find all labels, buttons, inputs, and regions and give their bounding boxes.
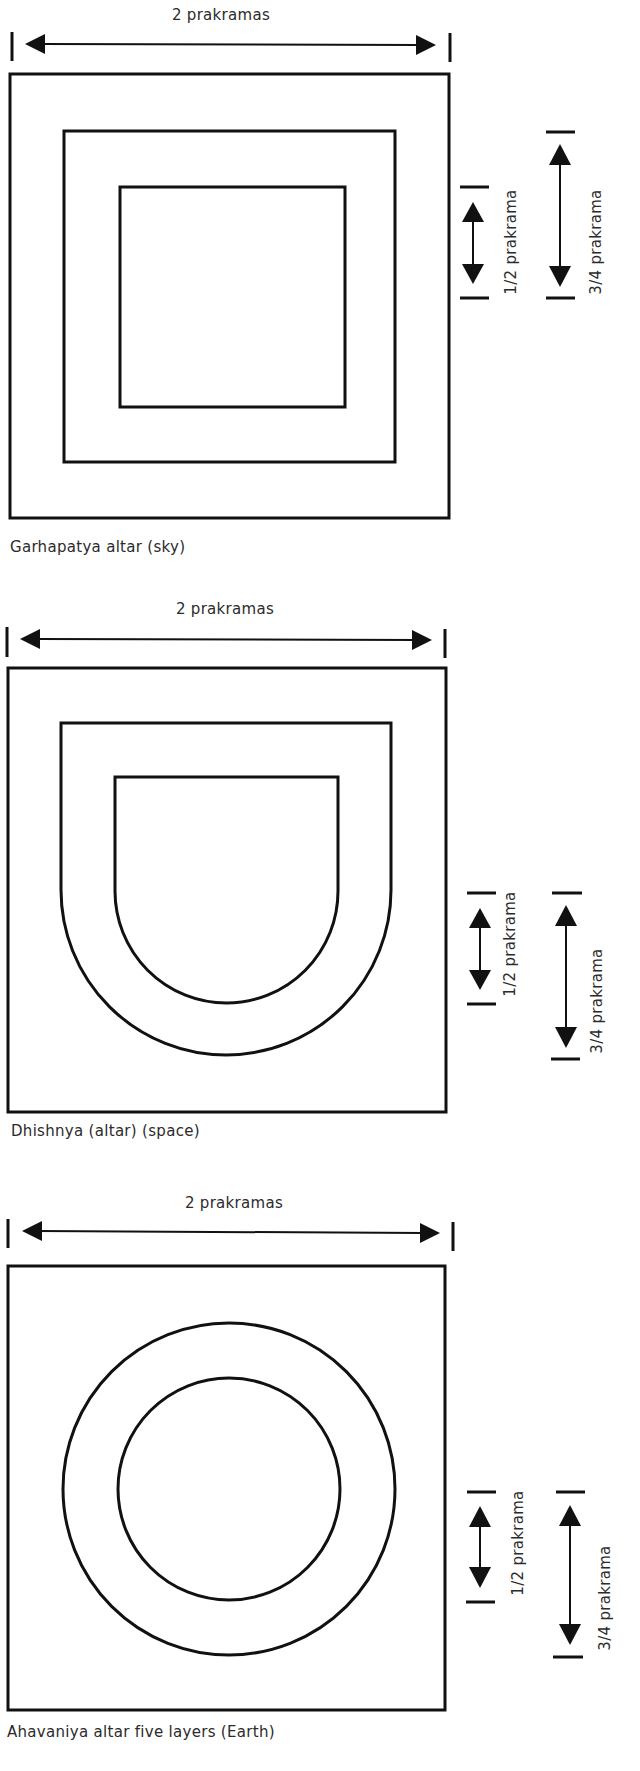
width-dimension-arrow xyxy=(8,1219,453,1251)
diagram-caption: Garhapatya altar (sky) xyxy=(10,538,185,556)
arrow-down-icon xyxy=(549,266,571,287)
arrow-left-icon xyxy=(25,34,45,54)
outer-circle xyxy=(63,1323,395,1655)
arrow-down-icon xyxy=(469,1567,491,1588)
half-prakrama-dimension xyxy=(467,893,496,1004)
arrow-down-icon xyxy=(462,264,484,284)
three-quarter-prakrama-dimension xyxy=(551,893,582,1059)
arrow-right-icon xyxy=(412,630,432,650)
arrow-up-icon xyxy=(469,1506,491,1527)
inner-square xyxy=(120,187,345,407)
arrow-up-icon xyxy=(555,905,577,926)
arrow-up-icon xyxy=(549,144,571,165)
width-dimension-arrow xyxy=(12,32,450,62)
arrow-down-icon xyxy=(559,1624,581,1645)
width-dimension-label: 2 prakramas xyxy=(172,6,270,24)
dhishnya-diagram: 2 prakramas 1/2 prakrama 3/4 prakrama xyxy=(7,600,606,1140)
three-quarter-prakrama-dimension xyxy=(553,1492,585,1657)
width-dimension-label: 2 prakramas xyxy=(185,1194,283,1212)
outer-square xyxy=(8,668,446,1112)
arrow-up-icon xyxy=(469,908,491,928)
arrow-left-icon xyxy=(20,629,40,649)
half-prakrama-label: 1/2 prakrama xyxy=(509,1490,527,1595)
arrow-up-icon xyxy=(559,1505,581,1526)
arrow-right-icon xyxy=(416,35,436,55)
diagram-caption: Ahavaniya altar five layers (Earth) xyxy=(7,1723,275,1741)
half-prakrama-dimension xyxy=(460,187,489,298)
arrow-down-icon xyxy=(555,1027,577,1048)
three-quarter-prakrama-label: 3/4 prakrama xyxy=(596,1545,614,1650)
altar-diagrams: 2 prakramas 1/2 prakrama 3/4 prakrama xyxy=(0,0,640,1771)
diagram-caption: Dhishnya (altar) (space) xyxy=(11,1122,200,1140)
arrow-down-icon xyxy=(469,970,491,990)
ahavaniya-diagram: 2 prakramas 1/2 prakrama 3/4 prakrama xyxy=(7,1194,614,1741)
three-quarter-prakrama-label: 3/4 prakrama xyxy=(588,948,606,1053)
width-dimension-label: 2 prakramas xyxy=(176,600,274,618)
outer-square xyxy=(8,1266,445,1710)
half-prakrama-label: 1/2 prakrama xyxy=(502,189,520,294)
inner-semicircle-shape xyxy=(115,777,338,1003)
half-prakrama-dimension xyxy=(466,1492,496,1602)
arrow-left-icon xyxy=(22,1221,42,1241)
half-prakrama-label: 1/2 prakrama xyxy=(501,891,519,996)
inner-circle xyxy=(118,1378,340,1600)
width-dimension-arrow xyxy=(7,627,445,658)
middle-semicircle-shape xyxy=(61,723,391,1055)
three-quarter-prakrama-label: 3/4 prakrama xyxy=(587,189,605,294)
outer-square xyxy=(10,74,449,518)
arrow-right-icon xyxy=(420,1223,440,1243)
three-quarter-prakrama-dimension xyxy=(546,132,575,298)
garhapatya-diagram: 2 prakramas 1/2 prakrama 3/4 prakrama xyxy=(10,6,605,556)
arrow-up-icon xyxy=(462,202,484,222)
